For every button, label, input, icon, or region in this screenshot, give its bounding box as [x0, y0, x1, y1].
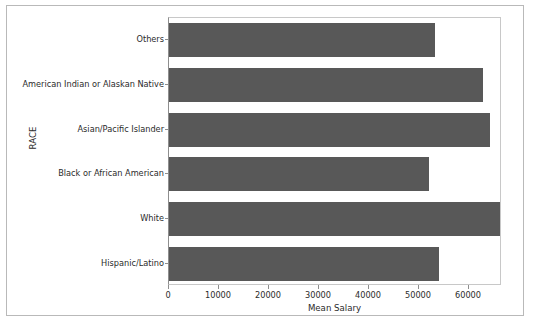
- y-axis-title: RACE: [28, 108, 38, 168]
- x-axis-tick-label: 20000: [255, 290, 281, 300]
- y-axis-tick-label: White: [0, 213, 164, 223]
- x-axis-tick-label: 30000: [305, 290, 331, 300]
- x-axis-tick-mark: [468, 285, 469, 289]
- x-axis-tick-mark: [268, 285, 269, 289]
- x-axis-tick-mark: [368, 285, 369, 289]
- y-axis-tick-label: Hispanic/Latino: [0, 258, 164, 268]
- x-axis-tick-mark: [318, 285, 319, 289]
- x-axis-tick-label: 50000: [405, 290, 431, 300]
- x-axis-tick-label: 40000: [355, 290, 381, 300]
- bar: [169, 113, 490, 147]
- x-axis-tick-label: 0: [165, 290, 170, 300]
- x-axis-tick-mark: [168, 285, 169, 289]
- y-axis-tick-label: Black or African American: [0, 168, 164, 178]
- bar: [169, 202, 501, 236]
- bar: [169, 23, 435, 57]
- y-axis-tick-label: American Indian or Alaskan Native: [0, 79, 164, 89]
- y-axis-tick-label: Asian/Pacific Islander: [0, 124, 164, 134]
- x-axis-tick-mark: [218, 285, 219, 289]
- x-axis-tick-mark: [418, 285, 419, 289]
- bar: [169, 157, 429, 191]
- plot-area: [168, 17, 501, 285]
- bar: [169, 247, 439, 281]
- x-axis-tick-label: 60000: [455, 290, 481, 300]
- bars-container: [169, 18, 500, 284]
- bar: [169, 68, 483, 102]
- chart-figure: RACE OthersAmerican Indian or Alaskan Na…: [0, 0, 533, 329]
- x-axis-tick-label: 10000: [205, 290, 231, 300]
- y-axis-tick-label: Others: [0, 34, 164, 44]
- x-axis-title: Mean Salary: [168, 303, 501, 313]
